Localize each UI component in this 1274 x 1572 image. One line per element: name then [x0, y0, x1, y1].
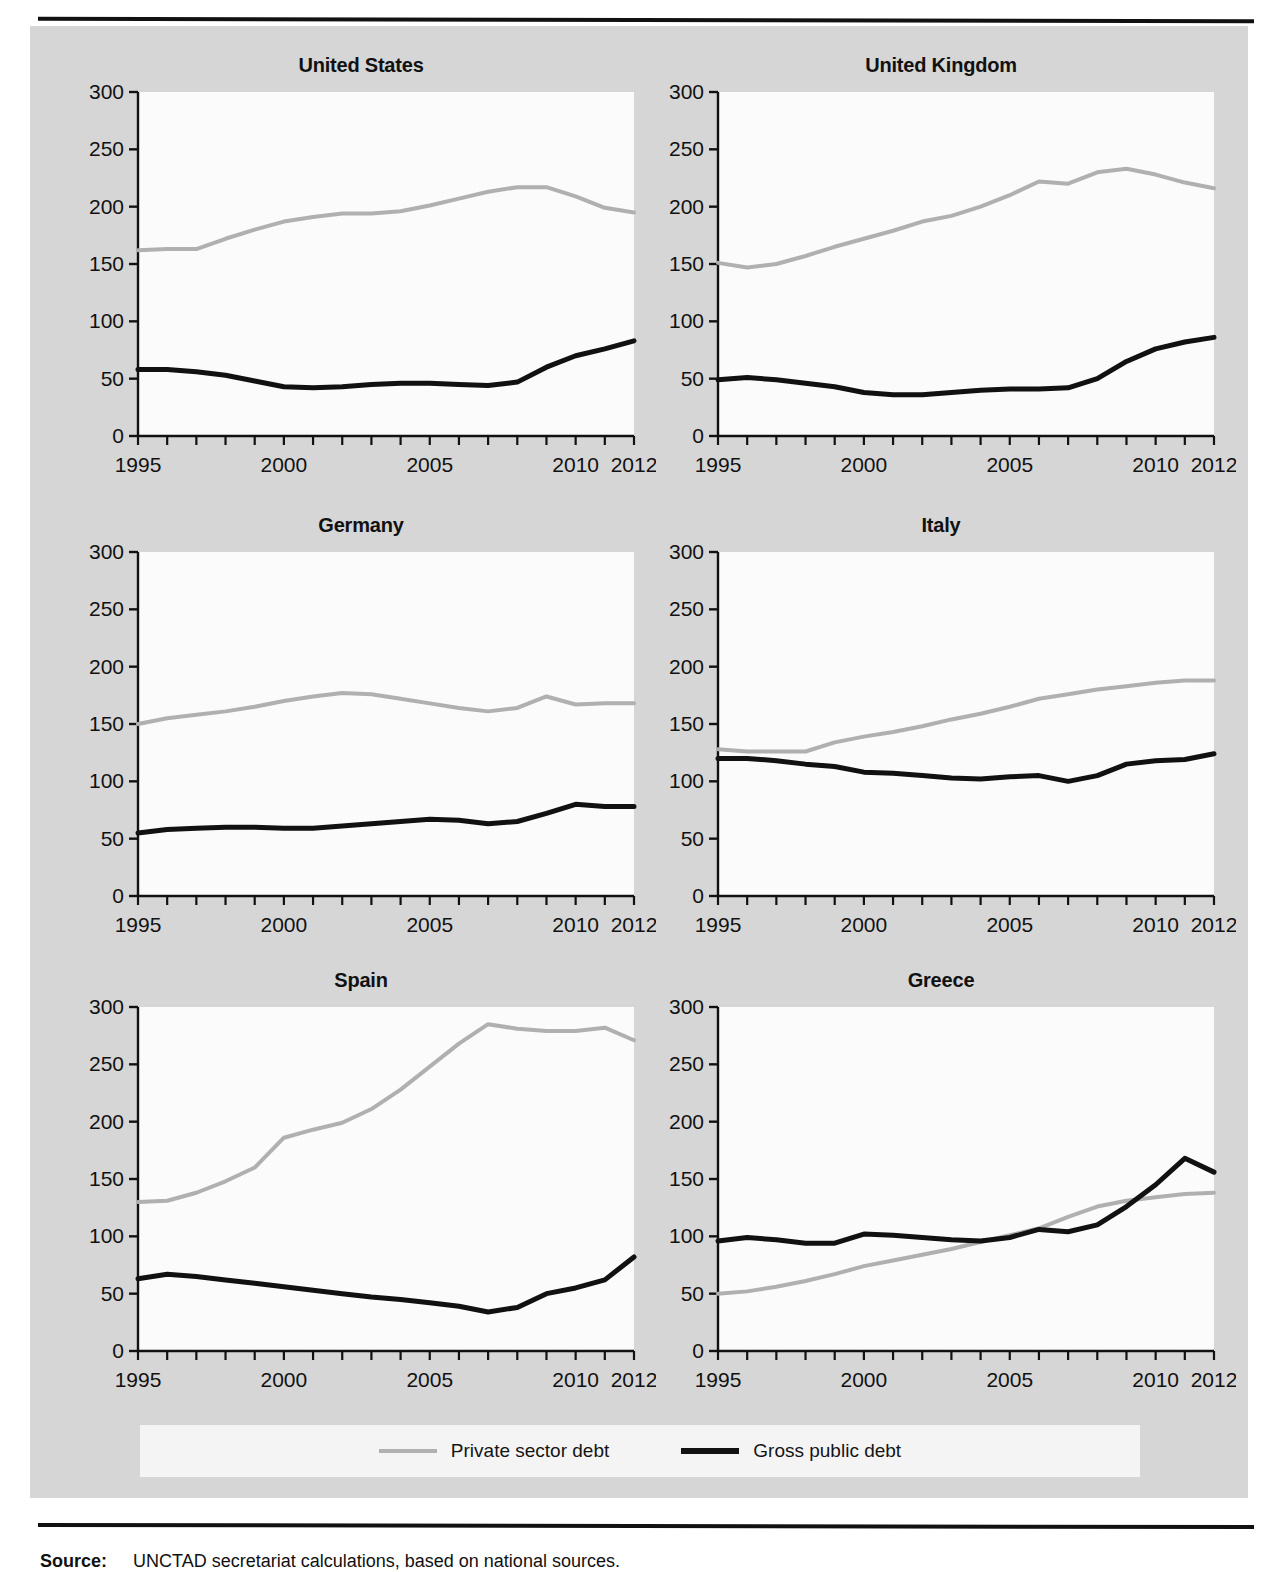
- y-tick-label: 0: [112, 884, 124, 907]
- y-tick-label: 100: [89, 1224, 124, 1247]
- y-tick-label: 150: [669, 252, 704, 275]
- x-tick-label: 2000: [261, 913, 308, 936]
- y-tick-label: 300: [89, 80, 124, 103]
- y-tick-label: 0: [692, 424, 704, 447]
- y-tick-label: 300: [89, 995, 124, 1018]
- x-tick-label: 1995: [695, 1368, 742, 1391]
- x-tick-label: 2010: [552, 453, 599, 476]
- chart-panel-greece: Greece 050100150200250300199520002005201…: [646, 969, 1236, 1424]
- y-tick-label: 200: [89, 655, 124, 678]
- x-tick-label: 2010: [552, 1368, 599, 1391]
- x-tick-label: 2005: [406, 913, 453, 936]
- figure-panel: United States 05010015020025030019952000…: [30, 26, 1248, 1498]
- x-tick-label: 1995: [115, 1368, 162, 1391]
- chart-plot: 05010015020025030019952000200520102012: [646, 78, 1236, 502]
- x-tick-label: 2010: [1132, 1368, 1179, 1391]
- y-tick-label: 100: [89, 769, 124, 792]
- y-tick-label: 250: [669, 137, 704, 160]
- y-tick-label: 100: [89, 309, 124, 332]
- y-tick-label: 250: [89, 597, 124, 620]
- chart-title: Germany: [66, 514, 656, 537]
- x-tick-label: 2000: [261, 1368, 308, 1391]
- chart-panel-italy: Italy 0501001502002503001995200020052010…: [646, 514, 1236, 969]
- chart-panel-united-states: United States 05010015020025030019952000…: [66, 54, 656, 509]
- y-tick-label: 50: [681, 827, 704, 850]
- y-tick-label: 100: [669, 309, 704, 332]
- legend-label: Private sector debt: [451, 1440, 609, 1462]
- legend-line-icon-public: [681, 1448, 739, 1454]
- x-tick-label: 2010: [552, 913, 599, 936]
- y-tick-label: 250: [89, 137, 124, 160]
- x-tick-label: 1995: [695, 453, 742, 476]
- y-tick-label: 300: [669, 80, 704, 103]
- bottom-divider-rule: [38, 1523, 1254, 1529]
- chart-title: Spain: [66, 969, 656, 992]
- chart-panel-united-kingdom: United Kingdom 0501001502002503001995200…: [646, 54, 1236, 509]
- y-tick-label: 200: [669, 655, 704, 678]
- y-tick-label: 200: [669, 1110, 704, 1133]
- chart-title: United States: [66, 54, 656, 77]
- y-tick-label: 150: [669, 1167, 704, 1190]
- y-tick-label: 200: [89, 195, 124, 218]
- x-tick-label: 2010: [1132, 453, 1179, 476]
- y-tick-label: 50: [681, 367, 704, 390]
- y-tick-label: 0: [692, 884, 704, 907]
- y-tick-label: 0: [112, 1339, 124, 1362]
- y-tick-label: 0: [692, 1339, 704, 1362]
- legend-item-gross-public-debt: Gross public debt: [681, 1440, 901, 1462]
- legend-item-private-sector-debt: Private sector debt: [379, 1440, 609, 1462]
- x-tick-label: 2005: [986, 1368, 1033, 1391]
- y-tick-label: 150: [669, 712, 704, 735]
- y-tick-label: 150: [89, 252, 124, 275]
- legend-line-icon-private: [379, 1449, 437, 1453]
- chart-plot: 05010015020025030019952000200520102012: [66, 993, 656, 1417]
- x-tick-label: 1995: [115, 913, 162, 936]
- source-text: UNCTAD secretariat calculations, based o…: [133, 1551, 620, 1571]
- x-tick-label: 2005: [986, 453, 1033, 476]
- source-note: Source:UNCTAD secretariat calculations, …: [40, 1551, 1220, 1572]
- chart-plot: 05010015020025030019952000200520102012: [646, 993, 1236, 1417]
- y-tick-label: 100: [669, 1224, 704, 1247]
- chart-panel-spain: Spain 0501001502002503001995200020052010…: [66, 969, 656, 1424]
- x-tick-label: 2005: [406, 1368, 453, 1391]
- y-tick-label: 0: [112, 424, 124, 447]
- plot-background: [138, 552, 634, 896]
- chart-title: Greece: [646, 969, 1236, 992]
- chart-plot: 05010015020025030019952000200520102012: [66, 538, 656, 962]
- small-multiples-grid: United States 05010015020025030019952000…: [30, 26, 1248, 1406]
- y-tick-label: 50: [101, 367, 124, 390]
- plot-background: [718, 1007, 1214, 1351]
- legend-label: Gross public debt: [753, 1440, 901, 1462]
- x-tick-label: 2000: [841, 453, 888, 476]
- plot-background: [718, 552, 1214, 896]
- y-tick-label: 250: [669, 1052, 704, 1075]
- x-tick-label: 2000: [841, 1368, 888, 1391]
- y-tick-label: 50: [101, 827, 124, 850]
- chart-title: Italy: [646, 514, 1236, 537]
- chart-panel-germany: Germany 05010015020025030019952000200520…: [66, 514, 656, 969]
- x-tick-label: 2010: [1132, 913, 1179, 936]
- y-tick-label: 50: [681, 1282, 704, 1305]
- x-tick-label: 2005: [406, 453, 453, 476]
- plot-background: [718, 92, 1214, 436]
- x-tick-label: 2005: [986, 913, 1033, 936]
- y-tick-label: 300: [669, 540, 704, 563]
- y-tick-label: 250: [669, 597, 704, 620]
- x-tick-label: 2012: [1191, 453, 1236, 476]
- top-divider-rule: [38, 17, 1254, 24]
- x-tick-label: 2012: [1191, 913, 1236, 936]
- x-tick-label: 1995: [695, 913, 742, 936]
- y-tick-label: 50: [101, 1282, 124, 1305]
- y-tick-label: 150: [89, 1167, 124, 1190]
- y-tick-label: 300: [669, 995, 704, 1018]
- y-tick-label: 100: [669, 769, 704, 792]
- y-tick-label: 200: [89, 1110, 124, 1133]
- source-label: Source:: [40, 1551, 107, 1571]
- chart-plot: 05010015020025030019952000200520102012: [646, 538, 1236, 962]
- x-tick-label: 1995: [115, 453, 162, 476]
- y-tick-label: 200: [669, 195, 704, 218]
- y-tick-label: 150: [89, 712, 124, 735]
- chart-plot: 05010015020025030019952000200520102012: [66, 78, 656, 502]
- chart-legend: Private sector debt Gross public debt: [140, 1425, 1140, 1477]
